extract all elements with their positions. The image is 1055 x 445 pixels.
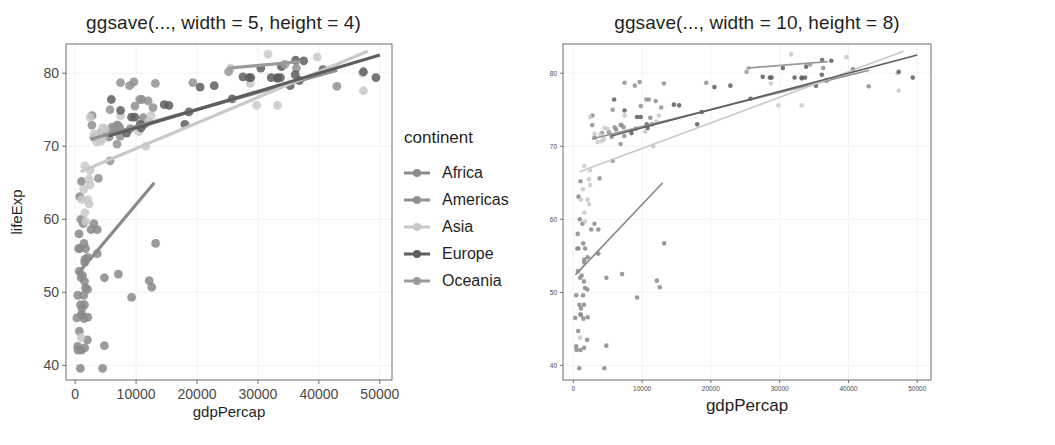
- svg-text:10000: 10000: [117, 386, 156, 402]
- legend-label: Oceania: [442, 272, 502, 290]
- svg-text:gdpPercap: gdpPercap: [706, 396, 788, 415]
- legend-item-africa[interactable]: Africa: [404, 159, 509, 186]
- svg-text:40: 40: [550, 362, 558, 369]
- svg-text:60: 60: [550, 216, 558, 223]
- svg-text:50: 50: [550, 289, 558, 296]
- svg-text:50000: 50000: [908, 385, 926, 392]
- legend-key-icon: [404, 217, 430, 237]
- plot-right: 010000200003000040000500004050607080gdpP…: [527, 0, 1055, 445]
- legend-left-title: continent: [404, 128, 509, 148]
- svg-text:40: 40: [43, 357, 59, 373]
- legend-label: Africa: [442, 164, 483, 182]
- figure-comparison: ggsave(..., width = 5, height = 4) 01000…: [0, 0, 1055, 445]
- legend-left: continent Africa Americas Asia Europe Oc…: [404, 128, 509, 294]
- legend-key-icon: [404, 244, 430, 264]
- legend-key-icon: [404, 190, 430, 210]
- svg-text:80: 80: [550, 70, 558, 77]
- svg-text:30000: 30000: [771, 385, 789, 392]
- legend-item-asia[interactable]: Asia: [404, 213, 509, 240]
- svg-text:30000: 30000: [238, 386, 277, 402]
- legend-label: Americas: [442, 191, 509, 209]
- svg-text:gdpPercap: gdpPercap: [193, 403, 266, 420]
- legend-key-icon: [404, 271, 430, 291]
- legend-item-europe[interactable]: Europe: [404, 240, 509, 267]
- svg-text:20000: 20000: [702, 385, 720, 392]
- svg-text:0: 0: [71, 386, 79, 402]
- legend-key-icon: [404, 163, 430, 183]
- svg-text:20000: 20000: [178, 386, 217, 402]
- svg-text:60: 60: [43, 211, 59, 227]
- svg-text:50: 50: [43, 284, 59, 300]
- figure-left: ggsave(..., width = 5, height = 4) 01000…: [0, 0, 527, 445]
- legend-item-americas[interactable]: Americas: [404, 186, 509, 213]
- svg-text:lifeExp: lifeExp: [8, 189, 25, 234]
- svg-text:0: 0: [572, 385, 576, 392]
- legend-label: Europe: [442, 245, 494, 263]
- svg-text:40000: 40000: [299, 386, 338, 402]
- legend-item-oceania[interactable]: Oceania: [404, 267, 509, 294]
- svg-text:70: 70: [550, 143, 558, 150]
- svg-text:80: 80: [43, 65, 59, 81]
- svg-text:70: 70: [43, 138, 59, 154]
- legend-label: Asia: [442, 218, 473, 236]
- svg-text:50000: 50000: [360, 386, 399, 402]
- svg-text:40000: 40000: [839, 385, 857, 392]
- figure-right: ggsave(..., width = 10, height = 8) 0100…: [527, 0, 1055, 445]
- svg-text:10000: 10000: [633, 385, 651, 392]
